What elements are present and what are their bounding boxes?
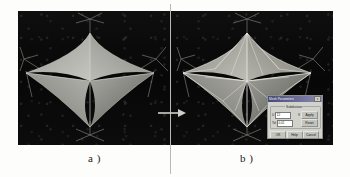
panel-a-sail-bottom-left <box>26 73 90 127</box>
panel-b-sail-bottom-left <box>183 73 247 127</box>
field-tol-row: Tol 0.01 <box>272 120 293 127</box>
reset-button[interactable]: Reset <box>301 119 318 127</box>
panel-a-sail-bottom-right <box>90 73 154 127</box>
field-u-label: U <box>272 113 274 117</box>
panel-a-sail-top-left <box>26 33 90 81</box>
field-u-input[interactable]: 12 <box>275 112 291 119</box>
dialog-footer: OK Help Cancel <box>270 131 319 139</box>
field-tol-label: Tol <box>272 121 276 125</box>
figure-root: Mesh Parameters x Subdivision U 12 V 12 … <box>0 0 350 177</box>
field-v-label: V <box>298 113 300 117</box>
apply-button[interactable]: Apply <box>301 111 318 119</box>
ok-button[interactable]: OK <box>270 131 286 139</box>
panel-a-scene <box>20 13 168 141</box>
subdivision-group-label: Subdivision <box>285 105 303 109</box>
field-tol-input[interactable]: 0.01 <box>277 120 293 127</box>
caption-panel-b: b ) <box>240 152 253 164</box>
transition-arrow-icon <box>158 107 186 119</box>
cancel-button[interactable]: Cancel <box>303 131 319 139</box>
field-u-row: U 12 <box>272 112 291 119</box>
mesh-parameters-dialog[interactable]: Mesh Parameters x Subdivision U 12 V 12 … <box>267 95 323 139</box>
caption-panel-a: a ) <box>88 152 101 164</box>
dialog-body: Subdivision U 12 V 12 Tol 0.01 Apply Res… <box>268 102 322 139</box>
panel-a-sail-top-right <box>90 33 154 81</box>
panel-divider <box>170 4 171 174</box>
help-button[interactable]: Help <box>287 131 303 139</box>
